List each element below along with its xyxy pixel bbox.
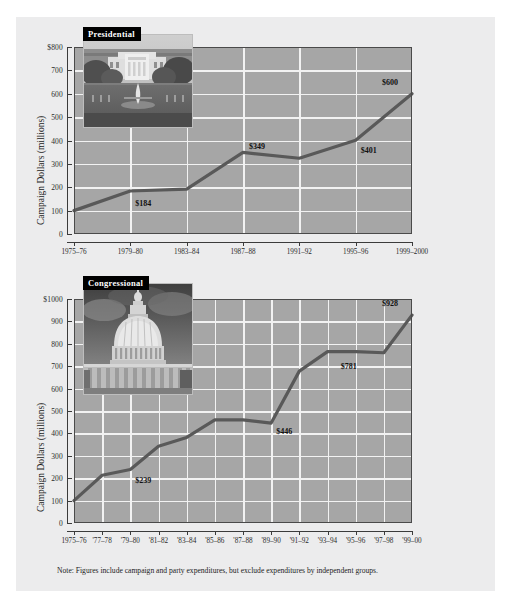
y-axis-tick <box>67 411 72 412</box>
data-point-label: $349 <box>249 142 265 151</box>
x-axis-tick <box>412 531 413 535</box>
data-point-label: $600 <box>382 78 398 87</box>
y-axis-tick <box>67 117 72 118</box>
x-axis-tick-label: '91–92 <box>290 537 309 545</box>
y-axis-tick-label: $1000 <box>0 295 63 304</box>
inset-us-capitol: Congressional <box>84 284 192 394</box>
y-axis-tick <box>67 523 72 524</box>
data-point-label: $446 <box>276 427 292 436</box>
inset-caption-congressional: Congressional <box>83 276 149 290</box>
inset-caption-presidential: Presidential <box>83 27 141 41</box>
x-axis-tick <box>271 531 272 535</box>
y-axis-tick-label: 600 <box>0 89 63 98</box>
y-axis-tick <box>67 47 72 48</box>
data-point-label: $781 <box>341 362 357 371</box>
x-axis-tick-label: '79–80 <box>121 537 140 545</box>
y-axis-tick-label: 100 <box>0 206 63 215</box>
y-axis-tick-label: 0 <box>0 519 63 528</box>
y-axis-tick <box>67 234 72 235</box>
x-axis-tick-label: 1975–76 <box>61 248 86 256</box>
y-axis-tick <box>67 501 72 502</box>
x-axis-tick-label: 1995–96 <box>343 248 368 256</box>
x-axis-tick <box>159 531 160 535</box>
y-axis-tick-label: 300 <box>0 451 63 460</box>
x-axis-tick <box>74 242 75 246</box>
x-axis-tick-label: '97–98 <box>374 537 393 545</box>
y-axis-tick <box>67 456 72 457</box>
x-axis-tick-label: '99–00 <box>402 537 421 545</box>
y-axis-tick-label: 500 <box>0 113 63 122</box>
x-axis-tick <box>384 531 385 535</box>
chart-presidential: $8007006005004003002001000 1975–761979–8… <box>0 0 511 258</box>
series-line-presidential <box>0 0 511 258</box>
y-axis-tick <box>67 94 72 95</box>
x-axis-tick <box>130 242 131 246</box>
x-axis-tick <box>243 531 244 535</box>
y-axis-tick <box>67 366 72 367</box>
chart-congressional: $10009008007006005004003002001000 1975–7… <box>0 258 511 568</box>
y-axis-tick-label: 400 <box>0 429 63 438</box>
x-axis-tick-label: '81–82 <box>149 537 168 545</box>
y-axis-tick-label: 100 <box>0 496 63 505</box>
data-point-label: $928 <box>382 299 398 308</box>
x-axis-tick <box>102 531 103 535</box>
x-axis-tick <box>243 242 244 246</box>
x-axis-tick-label: '93–94 <box>318 537 337 545</box>
y-axis-tick-label: 200 <box>0 183 63 192</box>
y-axis-tick-label: 200 <box>0 474 63 483</box>
x-axis-line <box>67 242 413 243</box>
y-axis-tick-label: 700 <box>0 362 63 371</box>
y-axis-tick <box>67 344 72 345</box>
figure-note: Note: Figures include campaign and party… <box>57 566 378 575</box>
y-axis-tick <box>67 478 72 479</box>
y-axis-tick-label: 700 <box>0 66 63 75</box>
x-axis-tick-label: '83–84 <box>177 537 196 545</box>
x-axis-tick-label: '85–86 <box>205 537 224 545</box>
y-axis-tick <box>67 321 72 322</box>
data-point-label: $184 <box>135 199 151 208</box>
x-axis-tick-label: '95–96 <box>346 537 365 545</box>
x-axis-tick <box>356 242 357 246</box>
x-axis-tick <box>356 531 357 535</box>
x-axis-tick <box>328 531 329 535</box>
figure-note-text: Note: Figures include campaign and party… <box>57 566 378 575</box>
y-axis-tick-label: 300 <box>0 159 63 168</box>
inset-white-house: Presidential <box>84 35 192 127</box>
x-axis-tick-label: 1991–92 <box>287 248 312 256</box>
y-axis-title-presidential: Campaign Dollars (millions) <box>36 116 46 225</box>
data-point-label: $401 <box>361 146 377 155</box>
y-axis-tick-label: 500 <box>0 407 63 416</box>
x-axis-tick-label: 1975–76 <box>61 537 86 545</box>
y-axis-tick-label: 600 <box>0 384 63 393</box>
x-axis-tick-label: '77–78 <box>93 537 112 545</box>
y-axis-tick <box>67 164 72 165</box>
x-axis-tick <box>215 531 216 535</box>
y-axis-tick <box>67 187 72 188</box>
y-axis-tick <box>67 141 72 142</box>
y-axis-title-congressional: Campaign Dollars (millions) <box>36 403 46 512</box>
y-axis-tick-label: 800 <box>0 339 63 348</box>
x-axis-tick-label: 1983–84 <box>174 248 199 256</box>
x-axis-tick-label: 1987–88 <box>230 248 255 256</box>
x-axis-line <box>67 531 413 532</box>
data-point-label: $239 <box>135 476 151 485</box>
us-capitol-photo <box>84 284 192 394</box>
x-axis-tick-label: 1999–2000 <box>396 248 428 256</box>
y-axis-tick-label: 900 <box>0 317 63 326</box>
y-axis-tick-label: 400 <box>0 136 63 145</box>
x-axis-tick-label: '87–88 <box>233 537 252 545</box>
y-axis-tick <box>67 70 72 71</box>
x-axis-tick-label: '89–90 <box>262 537 281 545</box>
x-axis-tick <box>74 531 75 535</box>
x-axis-tick-label: 1979–80 <box>118 248 143 256</box>
x-axis-tick <box>299 531 300 535</box>
y-axis-tick <box>67 211 72 212</box>
series-line-congressional <box>0 258 511 568</box>
x-axis-tick <box>299 242 300 246</box>
y-axis-tick <box>67 389 72 390</box>
y-axis-tick <box>67 433 72 434</box>
y-axis-tick-label: $800 <box>0 43 63 52</box>
y-axis-tick-label: 0 <box>0 230 63 239</box>
x-axis-tick <box>187 242 188 246</box>
x-axis-tick <box>412 242 413 246</box>
